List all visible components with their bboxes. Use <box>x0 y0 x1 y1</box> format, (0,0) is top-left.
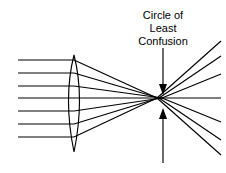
caption-line-3: Confusion <box>138 35 188 47</box>
converging-ray-5 <box>74 98 162 111</box>
incoming-ray-bundle <box>18 60 74 137</box>
optics-diagram-figure: Circle of Least Confusion <box>0 0 226 173</box>
caption-block: Circle of Least Confusion <box>138 9 188 47</box>
diverging-ray-6 <box>159 56 221 98</box>
converging-ray-1 <box>74 60 157 98</box>
converging-ray-7 <box>74 98 157 137</box>
converging-ray-2 <box>74 73 159 98</box>
caption-line-2: Least <box>150 22 177 34</box>
bottom-pointer-head <box>159 108 167 119</box>
caption-line-1: Circle of <box>143 9 184 21</box>
converging-ray-6 <box>74 98 159 124</box>
top-pointer-arrow <box>159 48 167 95</box>
converging-ray-3 <box>74 86 162 98</box>
diverging-ray-7 <box>157 41 221 98</box>
diverging-ray-1 <box>157 98 221 155</box>
bottom-pointer-arrow <box>159 108 167 163</box>
diagram-canvas: Circle of Least Confusion <box>0 0 226 173</box>
diverging-ray-2 <box>159 98 221 140</box>
